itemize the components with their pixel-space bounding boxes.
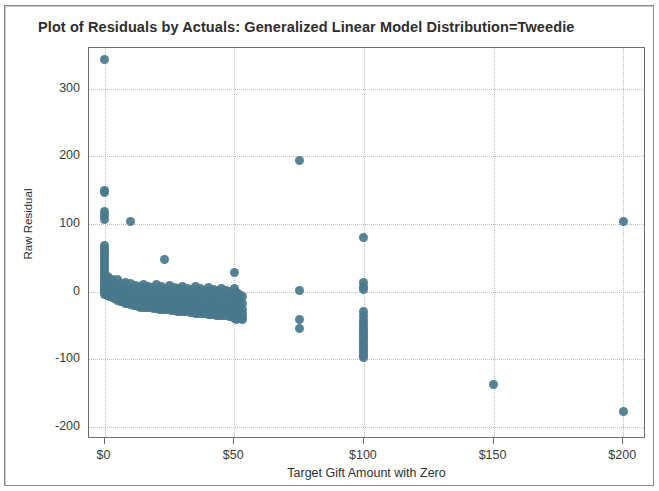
x-axis-tick-mark <box>363 438 364 444</box>
scatter-point <box>295 324 304 333</box>
chart-title: Plot of Residuals by Actuals: Generalize… <box>38 19 574 35</box>
gridline-vertical <box>364 48 365 437</box>
x-axis-tick-label: $0 <box>97 448 111 462</box>
x-axis-tick-label: $100 <box>349 448 377 462</box>
y-axis-title: Raw Residual <box>22 154 34 294</box>
y-axis-tick-label: 200 <box>59 148 80 162</box>
y-axis-ticks: -200-1000100200300 <box>40 47 80 438</box>
plot-area <box>88 47 645 438</box>
scatter-point <box>489 380 498 389</box>
scatter-point <box>359 285 368 294</box>
x-axis-tick-label: $200 <box>608 448 636 462</box>
x-axis-tick-label: $150 <box>479 448 507 462</box>
gridline-vertical <box>234 48 235 437</box>
y-axis-tick-label: -200 <box>55 419 80 433</box>
scatter-point <box>359 233 368 242</box>
y-axis-tick-label: 300 <box>59 81 80 95</box>
scatter-point <box>230 268 239 277</box>
scatter-point <box>126 217 135 226</box>
scatter-point <box>160 255 169 264</box>
screenshot-root: Plot of Residuals by Actuals: Generalize… <box>0 0 659 491</box>
scatter-point <box>295 286 304 295</box>
scatter-point <box>619 407 628 416</box>
scatter-point <box>100 188 109 197</box>
y-axis-tick-label: -100 <box>55 351 80 365</box>
x-axis-tick-label: $50 <box>223 448 244 462</box>
x-axis-tick-mark <box>622 438 623 444</box>
x-axis-tick-mark <box>104 438 105 444</box>
scatter-point <box>295 156 304 165</box>
scatter-point <box>100 215 109 224</box>
gridline-horizontal <box>89 156 644 157</box>
x-axis-ticks: $0$50$100$150$200 <box>88 438 645 468</box>
gridline-vertical <box>623 48 624 437</box>
y-axis-tick-label: 100 <box>59 216 80 230</box>
gridline-horizontal <box>89 224 644 225</box>
gridline-horizontal <box>89 89 644 90</box>
x-axis-tick-mark <box>493 438 494 444</box>
scatter-point <box>238 315 247 324</box>
scatter-point <box>619 217 628 226</box>
x-axis-tick-mark <box>233 438 234 444</box>
scatter-point <box>359 353 368 362</box>
x-axis-title: Target Gift Amount with Zero <box>88 466 645 480</box>
gridline-horizontal <box>89 427 644 428</box>
y-axis-tick-label: 0 <box>73 284 80 298</box>
scatter-point <box>100 55 109 64</box>
gridline-vertical <box>494 48 495 437</box>
